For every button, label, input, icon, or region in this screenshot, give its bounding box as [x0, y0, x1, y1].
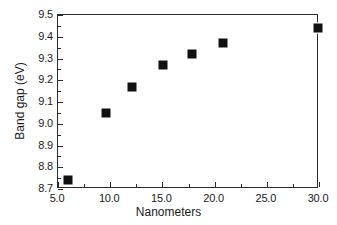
- x-axis-minor-tick: [241, 184, 242, 187]
- x-axis-tick: [215, 182, 216, 187]
- y-axis-tick: [58, 80, 63, 81]
- data-point: [159, 61, 168, 70]
- y-axis-tick: [58, 102, 63, 103]
- y-axis-tick: [58, 146, 63, 147]
- x-axis-tick: [162, 182, 163, 187]
- y-axis-tick-label: 9.1: [21, 95, 53, 107]
- y-axis-tick: [58, 189, 63, 190]
- y-axis-tick-label: 8.9: [21, 139, 53, 151]
- y-axis-tick: [58, 37, 63, 38]
- y-axis-minor-tick: [58, 135, 61, 136]
- y-axis-tick-label: 9.4: [21, 30, 53, 42]
- y-axis-minor-tick: [58, 69, 61, 70]
- x-axis-minor-tick: [84, 184, 85, 187]
- x-axis-tick-label: 30.0: [297, 192, 337, 204]
- y-axis-tick-label: 9.2: [21, 73, 53, 85]
- data-point: [313, 24, 322, 33]
- data-point: [128, 82, 137, 91]
- x-axis-minor-tick: [136, 184, 137, 187]
- y-axis-tick-label: 9.0: [21, 117, 53, 129]
- data-point: [187, 50, 196, 59]
- x-axis-minor-tick: [293, 184, 294, 187]
- y-axis-tick: [58, 59, 63, 60]
- x-axis-tick: [319, 182, 320, 187]
- y-axis-tick: [58, 15, 63, 16]
- y-axis-minor-tick: [58, 178, 61, 179]
- y-axis-tick-label: 9.5: [21, 8, 53, 20]
- x-axis-tick-label: 15.0: [140, 192, 182, 204]
- x-axis-tick-label: 10.0: [88, 192, 130, 204]
- x-axis-tick: [58, 182, 59, 187]
- y-axis-minor-tick: [58, 26, 61, 27]
- x-axis-title: Nanometers: [0, 205, 337, 219]
- data-point: [64, 176, 73, 185]
- y-axis-tick: [58, 167, 63, 168]
- x-axis-minor-tick: [189, 184, 190, 187]
- y-axis-minor-tick: [58, 48, 61, 49]
- x-axis-tick-label: 20.0: [193, 192, 235, 204]
- data-point: [218, 39, 227, 48]
- x-axis-tick-label: 5.0: [36, 192, 78, 204]
- y-axis-tick: [58, 124, 63, 125]
- y-axis-minor-tick: [58, 156, 61, 157]
- plot-area: [57, 14, 318, 188]
- band-gap-scatter-figure: Band gap (eV) Nanometers 8.78.88.99.09.1…: [0, 0, 337, 225]
- y-axis-tick-label: 9.3: [21, 52, 53, 64]
- x-axis-tick: [267, 182, 268, 187]
- data-point: [102, 108, 111, 117]
- x-axis-tick: [110, 182, 111, 187]
- y-axis-minor-tick: [58, 91, 61, 92]
- x-axis-tick-label: 25.0: [245, 192, 287, 204]
- y-axis-tick-label: 8.8: [21, 160, 53, 172]
- y-axis-minor-tick: [58, 113, 61, 114]
